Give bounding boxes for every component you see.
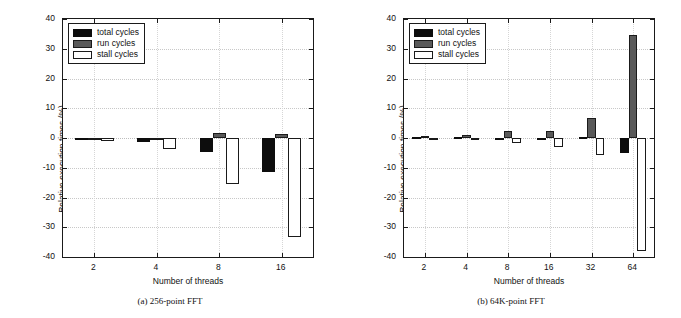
x-tick-mark xyxy=(282,253,283,257)
y-tick-mark xyxy=(309,227,313,228)
x-tick-label: 4 xyxy=(463,263,468,272)
x-tick-mark xyxy=(508,253,509,257)
y-tick-label: 40 xyxy=(387,14,396,23)
y-tick-label: -30 xyxy=(43,222,55,231)
y-tick-mark xyxy=(309,257,313,258)
bar-stall xyxy=(429,138,438,140)
y-tick-mark xyxy=(650,227,654,228)
y-tick-mark xyxy=(650,19,654,20)
bar-run xyxy=(88,138,101,140)
gridline-y xyxy=(404,168,654,169)
bar-total xyxy=(579,137,588,139)
gridline-x xyxy=(592,19,593,257)
y-tick-mark xyxy=(650,257,654,258)
x-tick-mark xyxy=(282,19,283,23)
x-tick-mark xyxy=(508,19,509,23)
legend-item-run: run cycles xyxy=(73,38,139,49)
y-tick-mark xyxy=(650,79,654,80)
x-tick-mark xyxy=(633,253,634,257)
y-tick-mark xyxy=(63,138,67,139)
y-tick-mark xyxy=(404,227,408,228)
y-tick-mark xyxy=(404,49,408,50)
x-tick-label: 8 xyxy=(505,263,510,272)
legend-swatch-run-icon xyxy=(73,40,92,48)
bar-run xyxy=(275,134,288,138)
legend-item-total: total cycles xyxy=(414,27,480,38)
y-tick-mark xyxy=(63,49,67,50)
legend-swatch-total-icon xyxy=(414,29,433,37)
gridline-x xyxy=(219,19,220,257)
y-tick-label: -20 xyxy=(43,192,55,201)
bar-total xyxy=(137,138,150,142)
y-tick-mark xyxy=(63,79,67,80)
y-tick-label: -10 xyxy=(384,163,396,172)
bar-stall xyxy=(163,138,176,149)
bar-run xyxy=(213,133,226,138)
legend-item-stall: stall cycles xyxy=(414,49,480,60)
legend-label-total: total cycles xyxy=(97,28,139,37)
x-tick-mark xyxy=(425,253,426,257)
y-tick-label: -20 xyxy=(384,192,396,201)
gridline-y xyxy=(404,138,654,139)
x-tick-mark xyxy=(550,253,551,257)
x-tick-mark xyxy=(467,253,468,257)
bar-total xyxy=(495,138,504,140)
bar-run xyxy=(587,118,596,138)
bar-run xyxy=(150,138,163,140)
x-tick-label: 4 xyxy=(153,263,158,272)
plot-wrap-a: total cycles run cycles stall cycles 403… xyxy=(62,18,314,258)
bar-total xyxy=(620,138,629,153)
gridline-y xyxy=(404,227,654,228)
legend-item-run: run cycles xyxy=(414,38,480,49)
x-tick-mark xyxy=(157,253,158,257)
x-tick-label: 2 xyxy=(421,263,426,272)
x-axis-title-a: Number of threads xyxy=(62,276,314,286)
y-tick-mark xyxy=(309,79,313,80)
gridline-y xyxy=(404,79,654,80)
x-tick-mark xyxy=(550,19,551,23)
gridline-y xyxy=(63,79,313,80)
y-tick-mark xyxy=(309,19,313,20)
bar-stall xyxy=(512,138,521,143)
legend-swatch-stall-icon xyxy=(414,51,433,59)
y-tick-mark xyxy=(63,108,67,109)
caption-a: (a) 256-point FFT xyxy=(0,296,340,306)
bar-total xyxy=(412,137,421,139)
legend-item-total: total cycles xyxy=(73,27,139,38)
bar-stall xyxy=(288,138,301,237)
legend-b: total cycles run cycles stall cycles xyxy=(409,23,486,64)
legend-swatch-total-icon xyxy=(73,29,92,37)
y-tick-label: 0 xyxy=(50,133,55,142)
y-tick-mark xyxy=(650,138,654,139)
legend-label-total: total cycles xyxy=(438,28,480,37)
y-tick-mark xyxy=(404,108,408,109)
legend-label-run: run cycles xyxy=(438,39,476,48)
x-tick-mark xyxy=(219,253,220,257)
x-tick-label: 16 xyxy=(544,263,553,272)
y-tick-mark xyxy=(650,108,654,109)
x-tick-label: 32 xyxy=(586,263,595,272)
legend-label-stall: stall cycles xyxy=(97,50,138,59)
x-tick-mark xyxy=(157,19,158,23)
y-tick-label: -40 xyxy=(43,252,55,261)
y-tick-mark xyxy=(404,198,408,199)
x-tick-mark xyxy=(592,19,593,23)
bar-run xyxy=(629,35,638,138)
y-tick-label: 30 xyxy=(387,44,396,53)
y-tick-mark xyxy=(404,257,408,258)
bar-total xyxy=(454,137,463,139)
bar-total xyxy=(537,138,546,140)
bar-run xyxy=(421,136,430,138)
y-tick-mark xyxy=(404,138,408,139)
legend-a: total cycles run cycles stall cycles xyxy=(68,23,145,64)
plot-wrap-b: total cycles run cycles stall cycles 403… xyxy=(403,18,655,258)
gridline-y xyxy=(63,227,313,228)
y-tick-label: -30 xyxy=(384,222,396,231)
y-tick-mark xyxy=(309,49,313,50)
bar-total xyxy=(262,138,275,172)
legend-swatch-run-icon xyxy=(414,40,433,48)
y-tick-mark xyxy=(309,138,313,139)
y-tick-label: 10 xyxy=(46,103,55,112)
x-tick-label: 2 xyxy=(91,263,96,272)
bar-total xyxy=(200,138,213,152)
